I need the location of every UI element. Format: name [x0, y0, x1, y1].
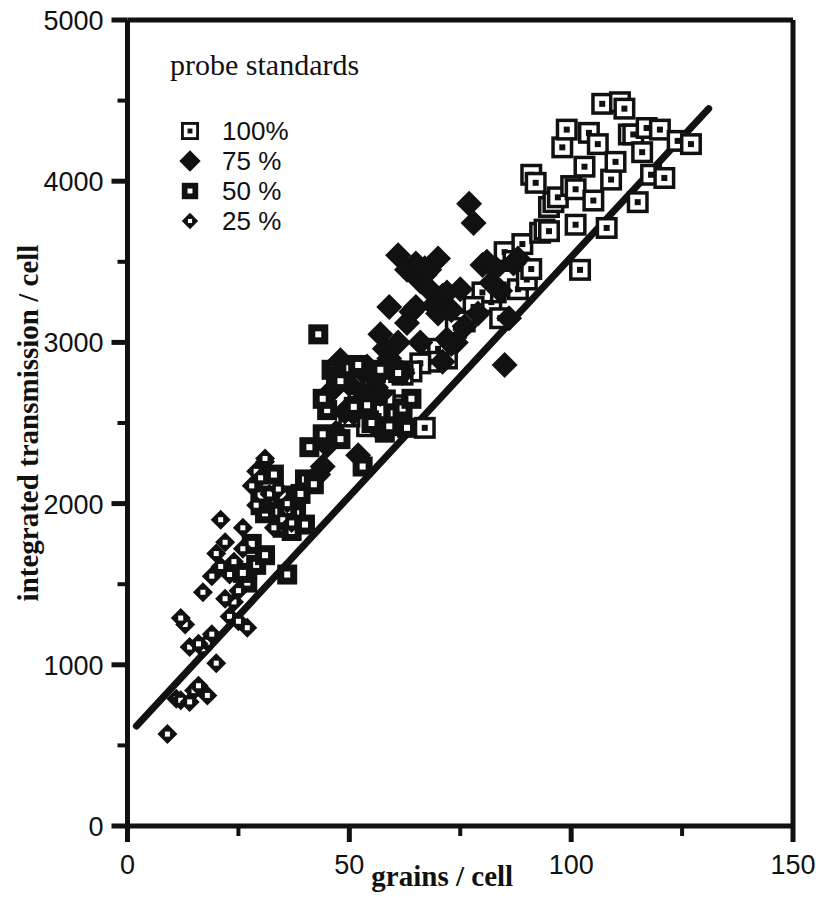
data-point: [456, 191, 482, 217]
legend-label-50: 50 %: [222, 176, 281, 206]
series-25-points: [157, 448, 301, 744]
legend-marker-50: [182, 183, 198, 199]
legend-marker-75: [179, 150, 200, 171]
data-point: [357, 395, 377, 415]
chart-canvas: 010002000300040005000050100150 grains / …: [0, 0, 816, 897]
data-point: [376, 294, 402, 320]
scatter-plot-figure: 010002000300040005000050100150 grains / …: [0, 0, 816, 897]
legend-title: probe standards: [170, 48, 359, 81]
legend-label-100: 100%: [222, 116, 289, 146]
data-point: [556, 119, 578, 141]
data-point: [414, 417, 436, 439]
legend-label-75: 75 %: [222, 146, 281, 176]
data-point: [596, 217, 618, 239]
legend-marker-100: [181, 122, 199, 140]
data-point: [680, 133, 702, 155]
data-point: [627, 191, 649, 213]
data-point: [313, 389, 333, 409]
y-tick-label: 3000: [43, 328, 103, 358]
data-point: [304, 474, 324, 494]
legend: probe standards100%75 %50 %25 %: [170, 48, 359, 236]
data-point: [313, 424, 333, 444]
data-point: [193, 582, 213, 602]
data-point: [565, 214, 587, 236]
legend-label-25: 25 %: [222, 206, 281, 236]
data-point: [330, 429, 350, 449]
data-point: [348, 355, 368, 375]
x-tick-label: 150: [770, 850, 815, 880]
data-point: [157, 724, 177, 744]
y-tick-label: 0: [88, 812, 103, 842]
x-tick-label: 50: [334, 850, 364, 880]
y-tick-label: 1000: [43, 651, 103, 681]
data-point: [206, 653, 226, 673]
data-point: [605, 151, 627, 173]
data-point: [388, 363, 408, 383]
data-point: [211, 510, 231, 530]
data-point: [308, 324, 328, 344]
y-tick-label: 2000: [43, 490, 103, 520]
x-axis-title: grains / cell: [371, 860, 513, 892]
x-tick-label: 0: [120, 850, 135, 880]
data-point: [401, 389, 421, 409]
data-point: [353, 457, 373, 477]
data-point: [569, 259, 591, 281]
data-point: [370, 360, 390, 380]
y-tick-label: 5000: [43, 6, 103, 36]
y-tick-label: 4000: [43, 167, 103, 197]
x-tick-label: 100: [549, 850, 594, 880]
data-point: [613, 98, 635, 120]
data-point: [277, 565, 297, 585]
legend-marker-25: [182, 213, 198, 229]
data-point: [397, 418, 417, 438]
y-axis-title: integrated transmission / cell: [12, 245, 44, 602]
data-point: [538, 220, 560, 242]
data-point: [573, 156, 595, 178]
data-point: [582, 190, 604, 212]
data-point: [492, 352, 518, 378]
data-point: [653, 167, 675, 189]
data-point: [525, 172, 547, 194]
data-point: [461, 210, 487, 236]
data-point: [631, 141, 653, 163]
